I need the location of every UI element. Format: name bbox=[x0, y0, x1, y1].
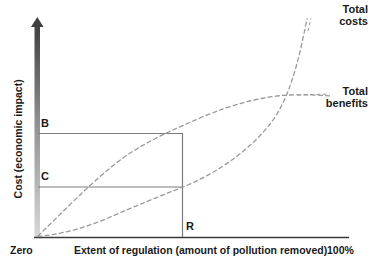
marker-label-b: B bbox=[41, 117, 49, 129]
x-axis-max-label: 100% bbox=[327, 245, 354, 257]
total-costs-label: Total costs bbox=[298, 3, 368, 28]
y-axis-label: Cost (economic impact) bbox=[13, 74, 25, 204]
total-costs-label-line1: Total bbox=[298, 3, 368, 15]
reference-box bbox=[38, 134, 183, 238]
total-benefits-label-line1: Total bbox=[298, 85, 368, 97]
marker-label-c: C bbox=[41, 170, 49, 182]
total-benefits-label-line2: benefits bbox=[298, 97, 368, 109]
total-benefits-label: Total benefits bbox=[298, 85, 368, 110]
total-costs-curve bbox=[38, 19, 307, 237]
x-axis-label: Extent of regulation (amount of pollutio… bbox=[74, 245, 327, 257]
x-axis-min-label: Zero bbox=[10, 245, 33, 257]
regulation-cost-benefit-figure: Cost (economic impact) B C R Zero Extent… bbox=[0, 0, 372, 267]
total-benefits-curve bbox=[38, 95, 330, 236]
marker-label-r: R bbox=[186, 220, 194, 232]
total-costs-label-line2: costs bbox=[298, 15, 368, 27]
